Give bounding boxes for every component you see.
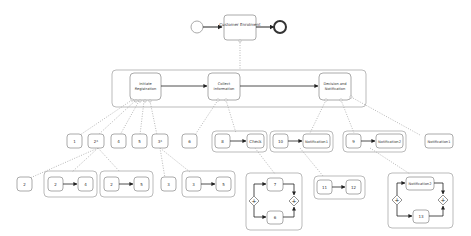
svg-text:6: 6	[188, 139, 191, 144]
svg-text:2: 2	[54, 182, 57, 187]
task-customer-enrolment[interactable]	[224, 15, 256, 40]
svg-text:8: 8	[221, 139, 224, 144]
svg-text:1: 1	[73, 139, 76, 144]
svg-text:5: 5	[138, 139, 141, 144]
process-diagram: Customer Enrolment InitiateRegistration …	[0, 0, 471, 236]
decision-children: 10 Notification1 11 12 9 Notification2 N…	[270, 131, 453, 228]
svg-text:6: 6	[274, 215, 277, 220]
svg-text:3*: 3*	[158, 139, 163, 144]
svg-text:Decision andNotification: Decision andNotification	[323, 82, 346, 91]
svg-text:+: +	[251, 197, 256, 204]
svg-text:11: 11	[322, 185, 328, 190]
svg-text:5: 5	[222, 182, 225, 187]
svg-text:Notification1: Notification1	[428, 140, 451, 144]
svg-text:Notification1: Notification1	[305, 140, 328, 144]
start-event-icon[interactable]	[191, 21, 203, 33]
svg-text:10: 10	[278, 139, 284, 144]
task-label: Customer Enrolment	[219, 22, 261, 27]
svg-text:2*: 2*	[94, 139, 99, 144]
svg-text:3: 3	[167, 182, 170, 187]
svg-text:+: +	[394, 196, 399, 203]
svg-text:12: 12	[351, 185, 357, 190]
svg-text:13: 13	[418, 214, 424, 219]
svg-text:Check: Check	[249, 139, 262, 144]
svg-text:Notification2: Notification2	[378, 140, 401, 144]
top-process: Customer Enrolment	[191, 15, 286, 70]
svg-text:7: 7	[274, 182, 277, 187]
svg-text:9: 9	[352, 139, 355, 144]
svg-text:5: 5	[140, 182, 143, 187]
svg-text:+: +	[291, 197, 296, 204]
svg-text:4: 4	[84, 182, 87, 187]
end-event-icon[interactable]	[274, 21, 286, 33]
svg-text:Notification2: Notification2	[409, 182, 432, 186]
svg-text:4: 4	[117, 139, 120, 144]
svg-text:2: 2	[23, 182, 26, 187]
svg-text:2: 2	[110, 182, 113, 187]
svg-text:+: +	[440, 196, 445, 203]
svg-text:3: 3	[192, 182, 195, 187]
initiate-children: 1 2* 4 5 3* 2 2 4 2 5 3 3 5	[17, 134, 235, 197]
